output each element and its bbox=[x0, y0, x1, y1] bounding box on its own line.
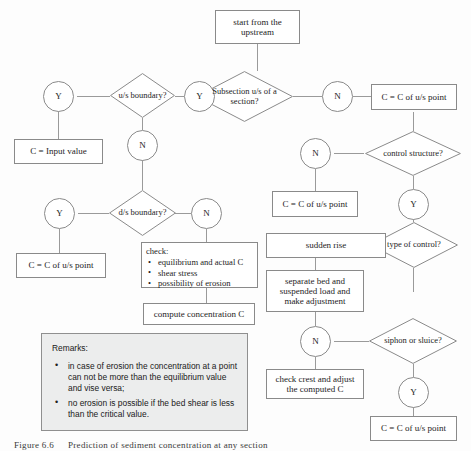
connector-type-to-siphon bbox=[413, 268, 414, 292]
node-check-crest[interactable]: check crest and adjust the computed C bbox=[266, 369, 364, 399]
node-control-structure-decision[interactable]: control structure? bbox=[365, 131, 461, 176]
node-separate-bed[interactable]: separate bed and suspended load and make… bbox=[266, 270, 364, 312]
node-input-value[interactable]: C = Input value bbox=[14, 139, 103, 164]
node-cus-point-mid-right-label: C = C of u/s point bbox=[283, 199, 348, 209]
node-type-of-control-label: type of control? bbox=[376, 240, 452, 250]
connector-siphon-to-no bbox=[334, 341, 369, 342]
node-start[interactable]: start from the upstream bbox=[215, 10, 300, 44]
node-us-boundary-yes-label: Y bbox=[55, 91, 62, 101]
node-cus-point-top-right[interactable]: C = C of u/s point bbox=[371, 84, 457, 110]
node-siphon-no-label: N bbox=[312, 336, 319, 346]
connector-yes-to-input-value bbox=[58, 111, 59, 139]
connector-ds-no-to-check bbox=[206, 229, 207, 242]
connector-subsection-to-no bbox=[293, 96, 322, 97]
node-subsection-decision[interactable]: Subsection u/s of a section? bbox=[196, 71, 293, 122]
node-control-structure-yes-label: Y bbox=[410, 199, 417, 209]
connector-control-to-yes bbox=[413, 176, 414, 189]
node-check-list[interactable]: check: equilibrium and actual C shear st… bbox=[141, 242, 258, 288]
connector-siphon-no-to-check-crest bbox=[315, 357, 316, 369]
node-siphon-yes-label: Y bbox=[410, 387, 417, 397]
node-us-boundary-decision[interactable]: u/s boundary? bbox=[110, 73, 175, 118]
node-subsection-no-label: N bbox=[334, 91, 341, 101]
check-list-title: check: bbox=[146, 246, 253, 256]
check-list-item: possibility of erosion bbox=[156, 278, 253, 288]
check-list-item: equilibrium and actual C bbox=[156, 257, 253, 267]
connector-separate-to-no bbox=[315, 312, 316, 326]
node-cus-point-bottom-right[interactable]: C = C of u/s point bbox=[370, 416, 457, 441]
node-ds-boundary-decision[interactable]: d/s boundary? bbox=[109, 190, 176, 236]
node-ds-boundary-yes[interactable]: Y bbox=[44, 198, 75, 229]
connector-ds-yes-to-result bbox=[59, 229, 60, 253]
connector-no-to-cus-top bbox=[353, 96, 371, 97]
connector-us-boundary-to-yes bbox=[77, 96, 110, 97]
node-start-label: start from the upstream bbox=[219, 17, 296, 37]
node-check-crest-label: check crest and adjust the computed C bbox=[270, 374, 360, 394]
node-ds-boundary-label: d/s boundary? bbox=[114, 208, 172, 218]
connector-check-to-compute bbox=[206, 288, 207, 303]
node-sudden-rise[interactable]: sudden rise bbox=[266, 233, 386, 258]
node-control-structure-label: control structure? bbox=[372, 149, 455, 159]
node-cus-point-bottom-right-label: C = C of u/s point bbox=[381, 423, 446, 433]
connector-yes-to-us-boundary bbox=[175, 96, 184, 97]
connector-us-boundary-to-no bbox=[142, 118, 143, 130]
connector-no-to-ds-boundary bbox=[142, 160, 143, 190]
check-list-items: equilibrium and actual C shear stress po… bbox=[146, 257, 253, 288]
figure-caption-text: Prediction of sediment concentration at … bbox=[68, 440, 268, 450]
figure-flowchart: start from the upstream Subsection u/s o… bbox=[0, 0, 471, 451]
node-sudden-rise-label: sudden rise bbox=[306, 240, 347, 250]
remarks-box: Remarks: in case of erosion the concentr… bbox=[41, 333, 248, 431]
connector-cus-top-to-control bbox=[413, 112, 414, 131]
check-list-item: shear stress bbox=[156, 268, 253, 278]
node-separate-bed-label: separate bed and suspended load and make… bbox=[270, 276, 360, 306]
node-subsection-no[interactable]: N bbox=[322, 81, 353, 112]
node-subsection-label: Subsection u/s of a section? bbox=[203, 87, 286, 106]
node-subsection-yes-label: Y bbox=[196, 91, 203, 101]
connector-siphon-to-yes bbox=[413, 364, 414, 377]
node-control-structure-no-label: N bbox=[312, 148, 319, 158]
figure-caption: Figure 6.6Prediction of sediment concent… bbox=[14, 440, 268, 450]
node-compute-concentration[interactable]: compute concentration C bbox=[143, 303, 255, 325]
node-cus-point-top-right-label: C = C of u/s point bbox=[382, 92, 447, 102]
remarks-list: in case of erosion the concentration at … bbox=[52, 361, 237, 420]
node-siphon-yes[interactable]: Y bbox=[398, 377, 429, 408]
connector-control-to-no bbox=[334, 153, 364, 154]
remarks-title: Remarks: bbox=[52, 343, 237, 354]
node-type-of-control-decision[interactable]: type of control? bbox=[370, 222, 458, 268]
connector-sudden-to-separate bbox=[315, 258, 316, 270]
node-us-boundary-label: u/s boundary? bbox=[115, 91, 171, 101]
remarks-item: no erosion is possible if the bed shear … bbox=[68, 398, 237, 420]
node-cus-point-left[interactable]: C = C of u/s point bbox=[16, 253, 106, 278]
node-siphon-or-sluice-label: siphon or sluice? bbox=[375, 336, 451, 346]
node-siphon-no[interactable]: N bbox=[300, 326, 331, 357]
node-us-boundary-no[interactable]: N bbox=[127, 130, 158, 161]
connector-ds-boundary-to-yes bbox=[78, 213, 109, 214]
node-input-value-label: C = Input value bbox=[30, 146, 86, 156]
connector-control-no-to-result bbox=[315, 169, 316, 191]
connector-start-to-subsection bbox=[257, 44, 258, 71]
node-siphon-or-sluice-decision[interactable]: siphon or sluice? bbox=[369, 318, 457, 364]
node-control-structure-no[interactable]: N bbox=[300, 138, 331, 169]
node-cus-point-mid-right[interactable]: C = C of u/s point bbox=[272, 191, 358, 217]
node-us-boundary-yes[interactable]: Y bbox=[43, 81, 74, 112]
remarks-item: in case of erosion the concentration at … bbox=[68, 361, 237, 394]
figure-caption-number: Figure 6.6 bbox=[14, 440, 54, 450]
node-cus-point-left-label: C = C of u/s point bbox=[29, 260, 94, 270]
node-ds-boundary-no[interactable]: N bbox=[191, 198, 222, 229]
node-control-structure-yes[interactable]: Y bbox=[398, 189, 429, 220]
node-compute-concentration-label: compute concentration C bbox=[154, 309, 244, 319]
node-ds-boundary-yes-label: Y bbox=[56, 208, 63, 218]
connector-ds-boundary-to-no bbox=[175, 213, 191, 214]
node-ds-boundary-no-label: N bbox=[203, 208, 210, 218]
node-us-boundary-no-label: N bbox=[139, 140, 146, 150]
